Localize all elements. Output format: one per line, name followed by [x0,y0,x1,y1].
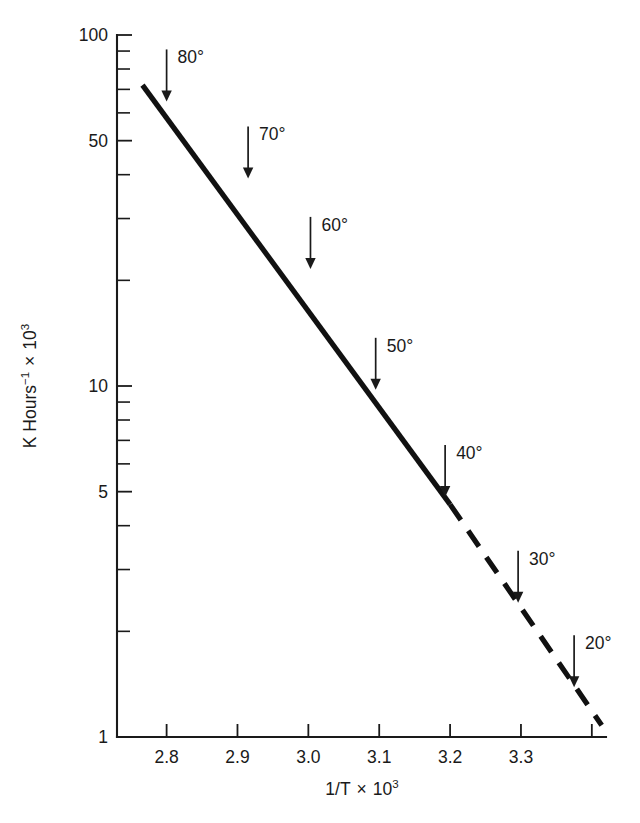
annotation-label: 50° [387,336,413,356]
data-series-group [143,85,602,725]
x-axis-ticks [167,724,592,737]
temperature-annotation: 20° [569,633,612,687]
annotation-label: 60° [321,215,347,235]
y-axis-ticks [117,35,132,737]
annotation-arrow-head [370,379,380,390]
svg-text:K Hours−1×103: K Hours−1×103 [19,324,40,448]
annotation-label: 80° [178,47,204,67]
temperature-annotation: 40° [440,443,483,497]
x-tick-label: 2.9 [225,747,249,767]
y-tick-label: 50 [89,131,109,151]
annotation-arrow-head [161,90,171,101]
x-tick-label: 3.3 [509,747,533,767]
annotation-label: 40° [456,443,482,463]
svg-text:1/T×103: 1/T×103 [325,778,398,799]
x-tick-label: 3.0 [296,747,321,767]
temperature-annotation: 70° [243,124,286,178]
y-tick-label: 5 [98,482,108,502]
y-tick-label: 100 [79,25,108,45]
x-tick-label: 3.1 [367,747,391,767]
annotation-arrow-head [305,258,315,269]
x-tick-label: 3.2 [438,747,462,767]
temperature-annotation: 80° [161,47,204,101]
x-axis-tick-labels: 2.82.93.03.13.23.3 [154,747,533,767]
annotation-label: 70° [259,124,285,144]
y-axis-title: K Hours−1×103 [19,324,40,448]
annotation-label: 30° [529,549,555,569]
temperature-annotation: 50° [370,336,413,390]
annotation-label: 20° [585,633,611,653]
y-tick-label: 1 [98,727,108,747]
data-line-extrapolated [450,504,602,725]
arrhenius-plot: 151050100 2.82.93.03.13.23.3 80°70°60°50… [0,0,640,823]
annotation-arrow-head [243,167,253,178]
annotation-arrow-head [569,676,579,687]
x-axis-title: 1/T×103 [325,778,398,799]
y-axis-tick-labels: 151050100 [79,25,108,747]
data-line-measured [143,85,451,504]
annotation-group: 80°70°60°50°40°30°20° [161,47,611,687]
y-tick-label: 10 [89,376,109,396]
temperature-annotation: 30° [513,549,556,603]
x-tick-label: 2.8 [154,747,178,767]
temperature-annotation: 60° [305,215,348,269]
chart-svg: 151050100 2.82.93.03.13.23.3 80°70°60°50… [0,0,640,823]
